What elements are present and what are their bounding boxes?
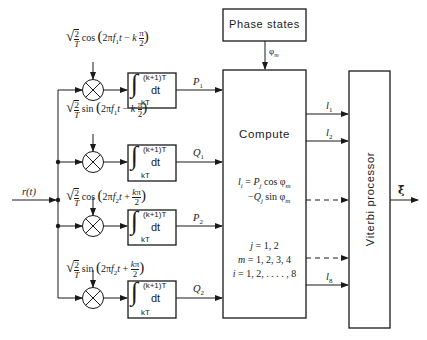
multiplier-3 [83,216,104,237]
phase-states-label: Phase states [223,18,306,30]
label-Q1: Q1 [193,147,204,161]
label-Q2: Q2 [193,283,204,297]
label-P1: P1 [193,76,203,90]
range-i: i = 1, 2, . . . . , 8 [223,268,306,279]
label-P2: P2 [193,212,203,226]
integral-icon: ∫ [131,143,138,169]
junction-dot [56,160,60,164]
compute-equation-line1: li = Pj cos φm [238,176,291,190]
range-j: j = 1, 2 [223,240,306,251]
label-l2: l2 [326,127,332,141]
phase-output-label: φm [269,46,279,58]
junction-dot [56,224,60,228]
reference-signal-1: √2T cos (2πf1t − k π2) [66,28,149,49]
range-m: m = 1, 2, 3, 4 [223,254,306,265]
label-l1: l1 [326,100,332,114]
integrator-4-content: ∫ (k+1)T dt kT [128,281,176,318]
integral-icon: ∫ [131,279,138,305]
input-label: r(t) [22,186,36,197]
compute-label: Compute [223,128,306,140]
viterbi-output-label: ξ̂ [398,184,405,197]
multiplier-1 [83,80,104,101]
integral-icon: ∫ [131,71,138,97]
multiplier-4 [83,288,104,309]
multiplier-2 [83,152,104,173]
viterbi-label: Viterbi processor [364,139,376,260]
reference-signal-3: √2T cos (2πf2t + kπ2) [66,187,146,208]
label-l8: l8 [326,271,332,285]
integrator-3-content: ∫ (k+1)T dt kT [128,210,176,245]
compute-equation-line2: −Qj sin φm [248,191,290,205]
integral-icon: ∫ [131,208,138,234]
junction-dot [56,198,60,202]
integrator-1-content: ∫ (k+1)T dt kT [128,73,176,108]
integrator-2-content: ∫ (k+1)T dt kT [128,145,176,181]
